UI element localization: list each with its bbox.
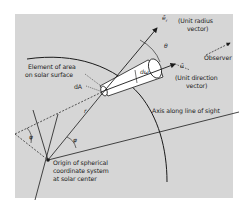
unit-direction-label: (Unit direction <box>175 74 218 81</box>
observer-label: Observer <box>204 54 232 61</box>
polar-axis-upper <box>33 110 48 160</box>
er-symbol: ēr <box>162 14 167 23</box>
unit-direction-label-2: vector) <box>186 82 207 89</box>
origin-label-1: Origin of spherical <box>53 159 108 166</box>
radius-line <box>48 95 101 160</box>
unit-radius-label-2: vector) <box>187 25 208 32</box>
r-label: r <box>84 107 86 114</box>
u-symbol: ū <box>180 62 184 69</box>
dA-label: dA <box>74 83 82 90</box>
element-of-area-label: Element of area <box>28 63 76 70</box>
origin-point <box>46 158 50 162</box>
theta-label: θ <box>164 42 168 49</box>
solar-geometry-diagram <box>0 0 248 212</box>
origin-label-3: at solar center <box>53 175 97 182</box>
domega-label: dω <box>140 68 149 75</box>
axis-label: Axis along line of sight <box>152 107 220 114</box>
origin-label-2: coordinate system <box>53 167 109 174</box>
solar-surface-label: on solar surface <box>25 71 73 78</box>
phi-left-label: φ <box>29 133 33 140</box>
phi-right-label: φ <box>73 136 77 143</box>
unit-radius-label: (Unit radius <box>178 17 213 24</box>
